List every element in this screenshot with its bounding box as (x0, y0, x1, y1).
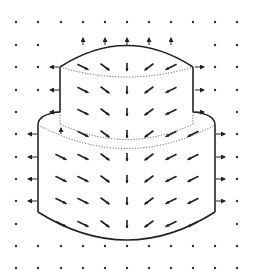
grid-dot (15, 66, 17, 68)
grid-dot (236, 133, 238, 135)
cylinder-outline (38, 46, 215, 241)
grid-dot (82, 245, 84, 247)
grid-dot (82, 21, 84, 23)
grid-dot (236, 156, 238, 158)
grid-dot (15, 21, 17, 23)
grid-dot (148, 21, 150, 23)
grid-dot (236, 267, 238, 269)
grid-dot (236, 44, 238, 46)
grid-dot (15, 267, 17, 269)
grid-dot (60, 267, 62, 269)
grid-dot (15, 223, 17, 225)
grid-dot (15, 111, 17, 113)
grid-dot (126, 21, 128, 23)
grid-dot (37, 245, 39, 247)
grid-dot (37, 89, 39, 91)
grid-dot (214, 245, 216, 247)
grid-dot (236, 89, 238, 91)
grid-dot (192, 267, 194, 269)
grid-dot (37, 267, 39, 269)
grid-dot (148, 267, 150, 269)
lower-left-shoulder (38, 112, 60, 125)
grid-dot (60, 21, 62, 23)
grid-dot (15, 178, 17, 180)
grid-dot (60, 245, 62, 247)
lower-right-shoulder (193, 112, 215, 125)
grid-dot (15, 44, 17, 46)
grid-dot (82, 267, 84, 269)
grid-dot (126, 245, 128, 247)
interior-vectors (56, 64, 198, 228)
grid-dot (37, 21, 39, 23)
grid-dot (236, 245, 238, 247)
grid-dot (236, 200, 238, 202)
grid-dot (236, 178, 238, 180)
grid-dot (214, 89, 216, 91)
grid-dot (236, 21, 238, 23)
grid-dots (15, 21, 238, 269)
grid-dot (104, 245, 106, 247)
grid-dot (236, 66, 238, 68)
grid-dot (15, 89, 17, 91)
grid-dot (192, 21, 194, 23)
grid-dot (37, 44, 39, 46)
grid-dot (214, 21, 216, 23)
vector-field-diagram (0, 0, 257, 280)
grid-dot (104, 267, 106, 269)
grid-dot (236, 223, 238, 225)
grid-dot (37, 66, 39, 68)
grid-dot (192, 245, 194, 247)
grid-dot (170, 21, 172, 23)
grid-dot (15, 200, 17, 202)
grid-dot (236, 111, 238, 113)
grid-dot (214, 66, 216, 68)
grid-dot (15, 156, 17, 158)
grid-dot (170, 245, 172, 247)
grid-dot (15, 133, 17, 135)
grid-dot (15, 245, 17, 247)
grid-dot (170, 267, 172, 269)
grid-dot (148, 245, 150, 247)
grid-dot (126, 267, 128, 269)
grid-dot (214, 44, 216, 46)
grid-dot (214, 267, 216, 269)
grid-dot (104, 21, 106, 23)
